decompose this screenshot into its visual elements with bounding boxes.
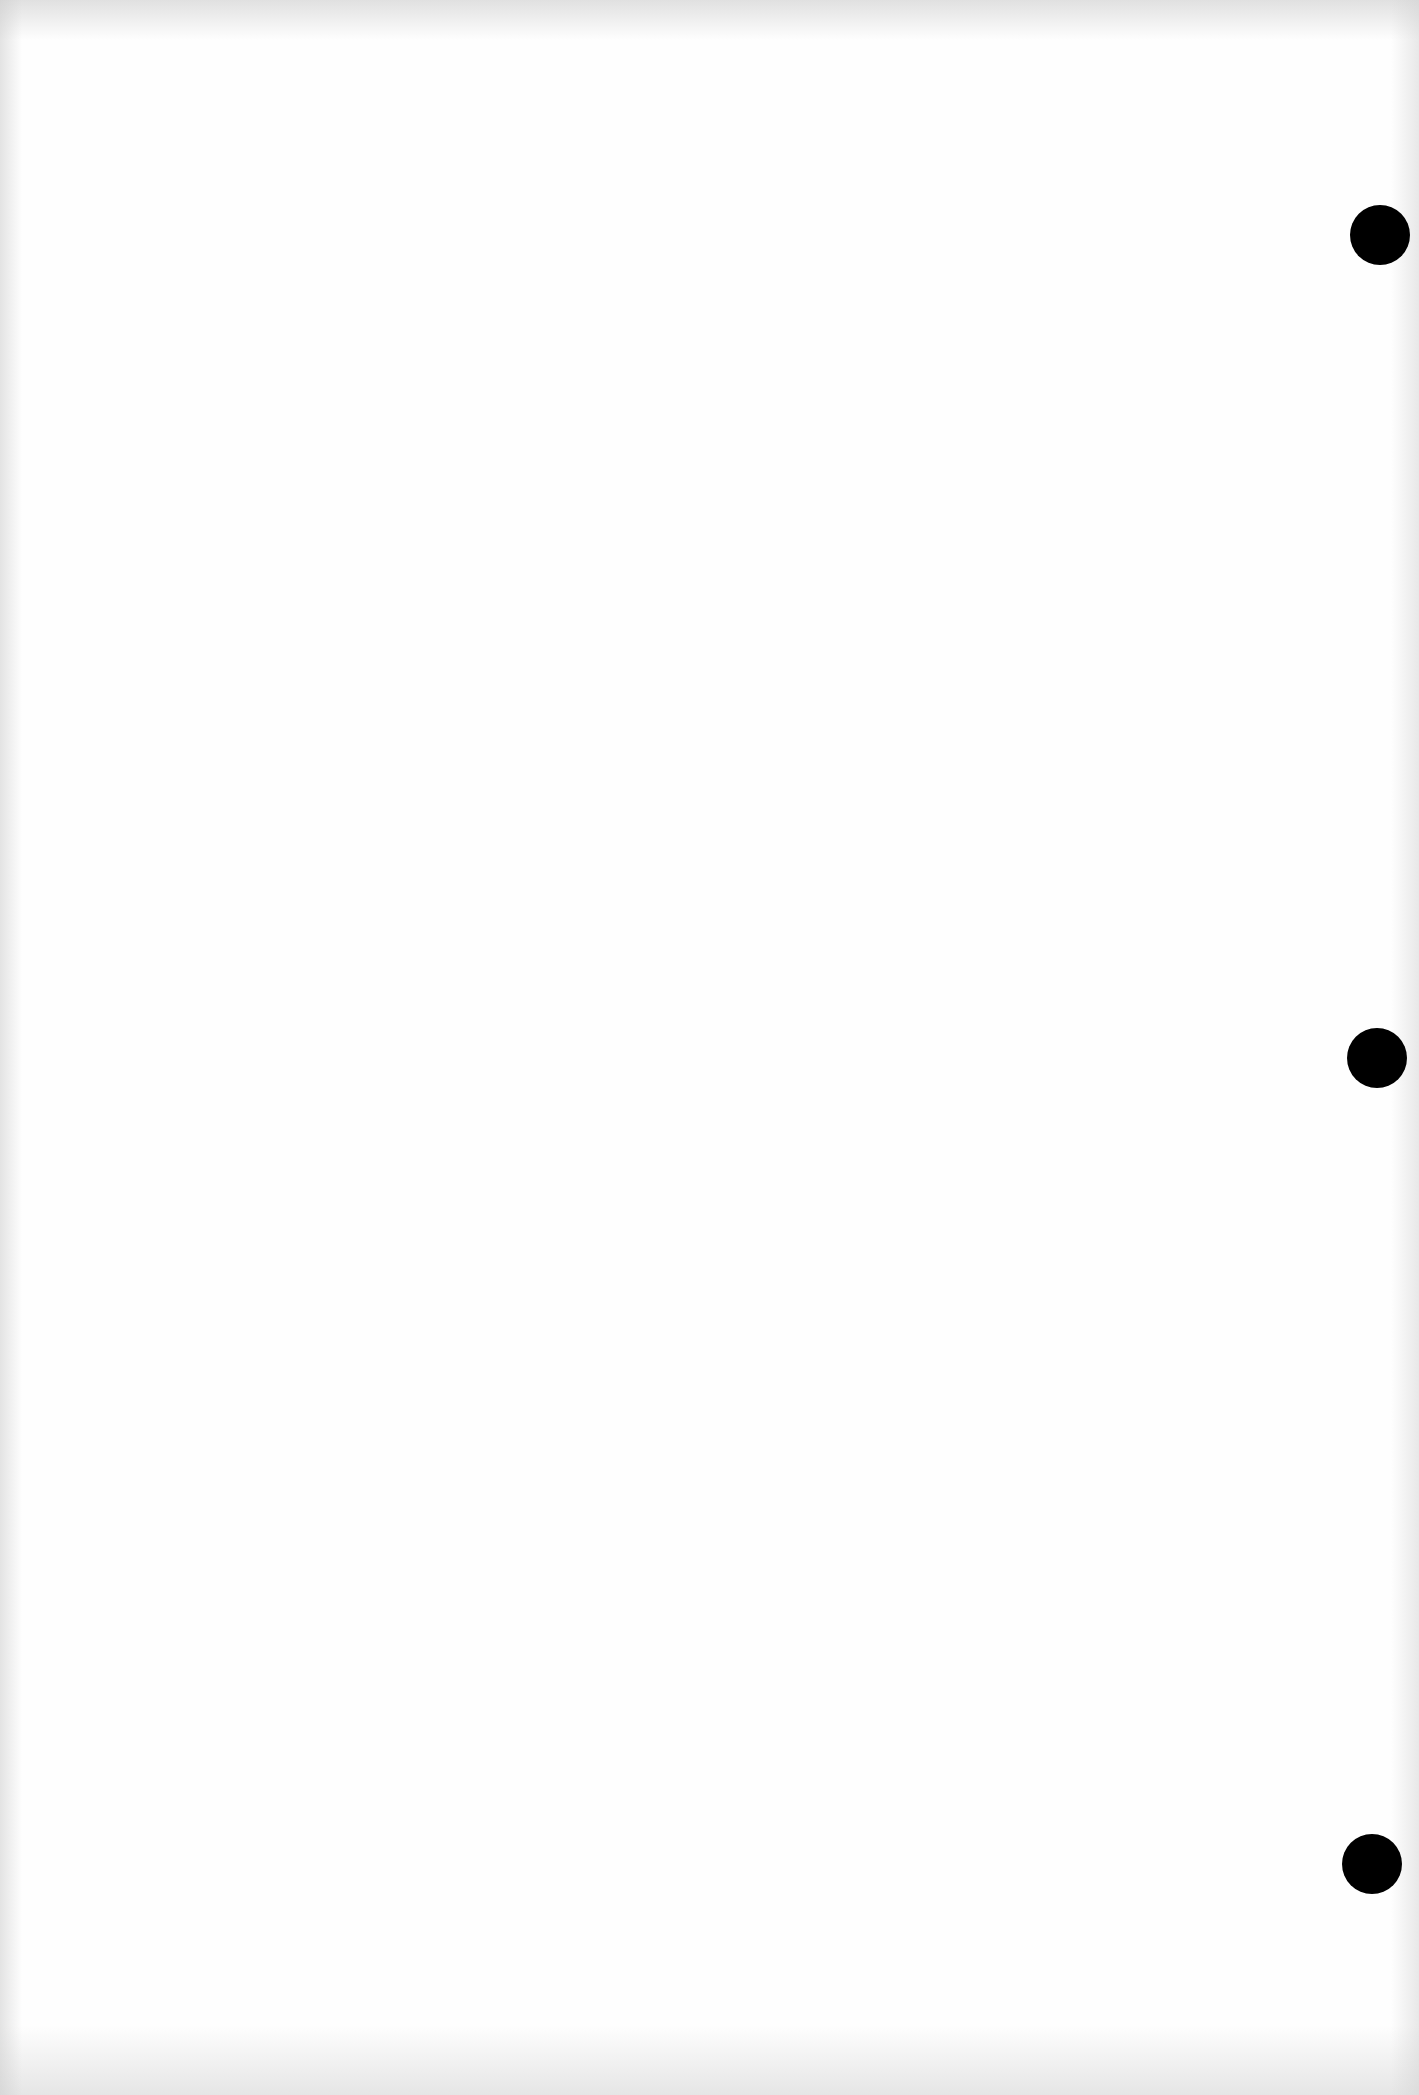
punch-hole-middle — [1347, 1028, 1407, 1088]
scan-shadow-left — [0, 0, 22, 2095]
punch-hole-top — [1350, 205, 1410, 265]
scan-shadow-bottom — [0, 2025, 1419, 2095]
blank-document-page — [0, 0, 1419, 2095]
punch-hole-bottom — [1342, 1834, 1402, 1894]
scan-shadow-top — [0, 0, 1419, 40]
